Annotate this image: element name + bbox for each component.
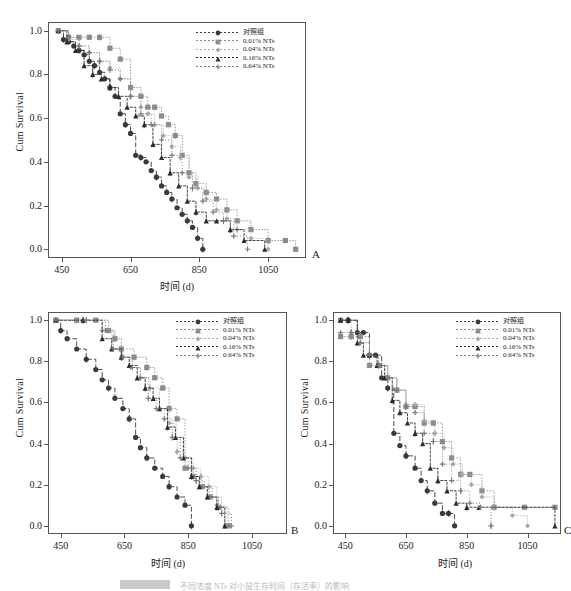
data-point-marker: [419, 478, 424, 483]
data-point-marker: [107, 46, 112, 51]
data-point-marker: [87, 59, 92, 64]
y-tick-mark: [44, 320, 48, 321]
y-tick-label: 0.0: [301, 520, 327, 531]
data-point-marker: [397, 443, 402, 448]
data-point-marker: [510, 513, 515, 518]
y-tick-mark: [44, 444, 48, 445]
data-point-marker: [131, 355, 136, 360]
data-point-marker: [405, 420, 410, 425]
panel-c: Cum Survival 时间 (d) C 对照组0.01% NTs0.04% …: [300, 300, 571, 590]
x-tick-mark: [406, 534, 407, 538]
data-point-marker: [432, 501, 437, 506]
data-point-marker: [174, 205, 179, 210]
data-point-marker: [412, 466, 417, 471]
data-point-marker: [112, 396, 117, 401]
y-tick-label: 0.4: [16, 438, 42, 449]
data-point-marker: [428, 466, 433, 471]
x-tick-mark: [124, 534, 125, 538]
x-tick-label: 1050: [510, 540, 546, 551]
data-point-marker: [552, 523, 557, 528]
panel-a-curves: [0, 0, 340, 295]
data-point-marker: [182, 503, 187, 508]
data-point-marker: [440, 462, 445, 467]
x-tick-mark: [345, 534, 346, 538]
data-point-marker: [467, 501, 472, 506]
y-tick-mark: [329, 444, 333, 445]
data-point-marker: [180, 212, 185, 217]
y-tick-label: 0.2: [16, 479, 42, 490]
x-tick-label: 850: [181, 264, 217, 275]
y-tick-mark: [44, 74, 48, 75]
data-point-marker: [164, 190, 169, 195]
x-tick-mark: [188, 534, 189, 538]
data-point-marker: [174, 416, 179, 421]
y-tick-label: 0.2: [16, 200, 42, 211]
data-point-marker: [159, 113, 164, 118]
data-point-marker: [367, 363, 372, 368]
y-tick-label: 0.8: [16, 355, 42, 366]
y-tick-mark: [44, 206, 48, 207]
data-point-marker: [166, 122, 171, 127]
data-point-marker: [93, 367, 98, 372]
data-point-marker: [190, 225, 195, 230]
y-tick-mark: [329, 361, 333, 362]
data-point-marker: [74, 346, 79, 351]
data-point-marker: [420, 441, 425, 446]
y-tick-mark: [44, 162, 48, 163]
data-point-marker: [125, 105, 130, 110]
panel-a: Cum Survival 时间 (d) A 对照组0.01% NTs0.04% …: [0, 0, 340, 295]
data-point-marker: [162, 416, 167, 421]
data-point-marker: [152, 375, 157, 380]
y-tick-label: 0.8: [16, 68, 42, 79]
y-tick-mark: [44, 485, 48, 486]
data-point-marker: [118, 76, 123, 81]
survival-curve: [341, 320, 555, 526]
y-tick-label: 1.0: [301, 314, 327, 325]
data-point-marker: [412, 410, 417, 415]
data-point-marker: [118, 111, 123, 116]
x-tick-label: 450: [43, 540, 79, 551]
survival-curve: [56, 320, 231, 526]
survival-curve: [56, 320, 228, 526]
x-tick-mark: [528, 534, 529, 538]
data-point-marker: [450, 462, 455, 467]
caption-text: 不同浓度 NTs 对小鼠生存时间（存活率）的影响: [180, 580, 349, 591]
data-point-marker: [293, 247, 298, 252]
y-tick-label: 0.4: [16, 156, 42, 167]
y-tick-label: 0.8: [301, 355, 327, 366]
data-point-marker: [440, 511, 445, 516]
y-tick-mark: [44, 118, 48, 119]
data-point-marker: [159, 183, 164, 188]
x-tick-mark: [467, 534, 468, 538]
x-tick-label: 650: [388, 540, 424, 551]
x-tick-mark: [199, 258, 200, 262]
data-point-marker: [143, 159, 148, 164]
y-tick-mark: [44, 249, 48, 250]
y-tick-label: 0.6: [301, 396, 327, 407]
y-tick-mark: [329, 485, 333, 486]
x-tick-mark: [252, 534, 253, 538]
y-tick-label: 1.0: [16, 314, 42, 325]
x-tick-label: 850: [449, 540, 485, 551]
data-point-marker: [133, 435, 138, 440]
caption-badge: [120, 580, 170, 589]
panel-b: Cum Survival 时间 (d) B 对照组0.01% NTs0.04% …: [0, 300, 300, 590]
data-point-marker: [525, 523, 530, 528]
data-point-marker: [65, 336, 70, 341]
data-point-marker: [361, 353, 366, 358]
y-tick-label: 0.2: [301, 479, 327, 490]
y-tick-label: 0.6: [16, 112, 42, 123]
y-tick-mark: [329, 526, 333, 527]
data-point-marker: [138, 445, 143, 450]
x-tick-mark: [62, 258, 63, 262]
data-point-marker: [87, 35, 92, 40]
data-point-marker: [452, 523, 457, 528]
data-point-marker: [120, 406, 125, 411]
y-tick-label: 0.0: [16, 520, 42, 531]
data-point-marker: [469, 482, 474, 487]
x-tick-mark: [61, 534, 62, 538]
data-point-marker: [149, 168, 154, 173]
y-tick-label: 1.0: [16, 25, 42, 36]
data-point-marker: [245, 247, 250, 252]
data-point-marker: [231, 234, 236, 239]
